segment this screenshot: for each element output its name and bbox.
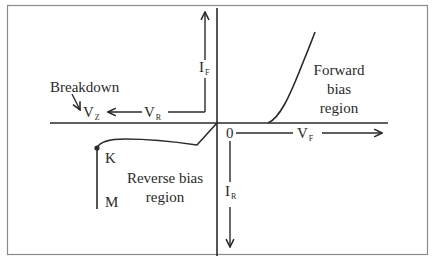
forward-region-label: Forward bias region bbox=[306, 61, 372, 118]
if-label: IF bbox=[199, 60, 209, 77]
forward-line-2: bias bbox=[306, 80, 372, 99]
vr-main: V bbox=[144, 104, 155, 120]
forward-line-1: Forward bbox=[306, 61, 372, 80]
ir-sub: R bbox=[231, 192, 236, 201]
vf-label: VF bbox=[297, 126, 313, 143]
reverse-region-label: Reverse bias region bbox=[122, 169, 208, 207]
m-label: M bbox=[105, 195, 118, 210]
k-text: K bbox=[105, 150, 116, 166]
vz-sub: Z bbox=[95, 113, 100, 122]
if-sub: F bbox=[205, 68, 209, 77]
if-main: I bbox=[199, 59, 204, 75]
reverse-line-2: region bbox=[122, 188, 208, 207]
forward-line-3: region bbox=[306, 99, 372, 118]
breakdown-pointer-arrow bbox=[72, 94, 80, 110]
zener-characteristic-diagram bbox=[0, 0, 434, 263]
ir-main: I bbox=[225, 183, 230, 199]
reverse-curve bbox=[97, 123, 217, 148]
vz-label: VZ bbox=[83, 105, 100, 122]
origin-text: 0 bbox=[226, 125, 234, 141]
knee-point-k bbox=[94, 145, 99, 150]
m-text: M bbox=[105, 194, 118, 210]
vz-main: V bbox=[83, 104, 94, 120]
reverse-line-1: Reverse bias bbox=[122, 169, 208, 188]
vf-sub: F bbox=[309, 134, 313, 143]
k-label: K bbox=[105, 151, 116, 166]
vr-sub: R bbox=[156, 113, 161, 122]
breakdown-label: Breakdown bbox=[50, 80, 119, 95]
vr-label: VR bbox=[144, 105, 161, 122]
ir-label: IR bbox=[225, 184, 236, 201]
origin-label: 0 bbox=[226, 126, 234, 141]
breakdown-text: Breakdown bbox=[50, 79, 119, 95]
vf-main: V bbox=[297, 125, 308, 141]
